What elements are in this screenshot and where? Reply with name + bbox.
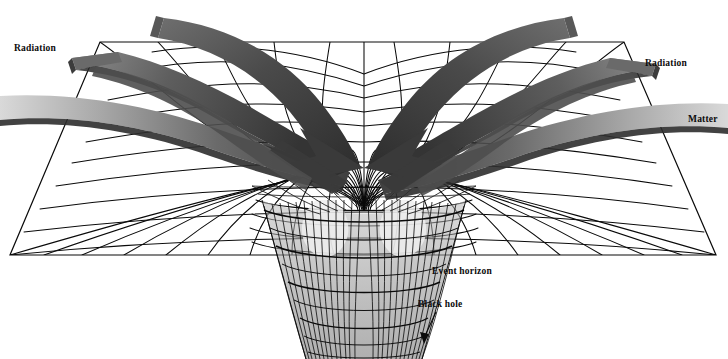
label-matter: Matter (688, 115, 718, 125)
funnel-light-lobe-left (302, 200, 349, 257)
label-radiation-right: Radiation (645, 59, 687, 69)
black-hole-spacetime-figure: Radiation Radiation Matter Event horizon… (0, 0, 728, 359)
label-black-hole: Black hole (418, 300, 463, 310)
spacetime-diagram-canvas (0, 0, 728, 359)
label-radiation-left: Radiation (14, 44, 56, 54)
label-event-horizon: Event horizon (432, 267, 492, 277)
funnel-light-lobe-right (380, 200, 427, 257)
